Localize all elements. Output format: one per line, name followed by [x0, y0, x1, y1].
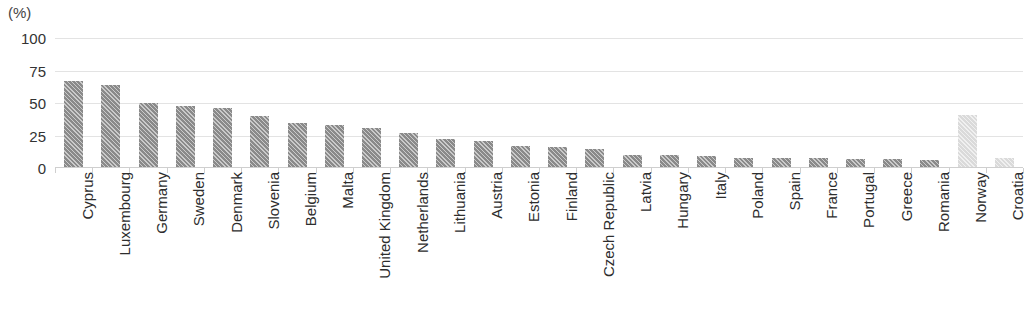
bar	[362, 128, 381, 168]
x-axis-category-labels: CyprusLuxembourgGermanySwedenDenmarkSlov…	[55, 172, 1023, 312]
y-axis-unit-label: (%)	[8, 4, 31, 21]
x-axis-category-label: Poland	[750, 172, 765, 219]
x-axis-category-label: Croatia	[1010, 172, 1025, 220]
y-axis-tick-labels: 0255075100	[0, 38, 46, 168]
plot-area	[55, 38, 1023, 168]
x-axis-category-label: Norway	[973, 172, 988, 223]
x-axis-category-label: Spain	[787, 172, 802, 210]
bar	[511, 146, 530, 168]
bar	[325, 125, 344, 168]
bar	[585, 149, 604, 169]
bar	[250, 116, 269, 168]
x-axis-category-label: Denmark	[229, 172, 244, 233]
bar	[213, 108, 232, 168]
x-axis-category-label: Lithuania	[452, 172, 467, 233]
y-axis-tick-label: 0	[0, 161, 46, 176]
x-axis-category-label: Luxembourg	[117, 172, 132, 255]
y-axis-tick-label: 100	[0, 31, 46, 46]
bar	[436, 139, 455, 168]
x-axis-category-label: United Kingdom	[377, 172, 392, 279]
bar	[288, 123, 307, 169]
bar	[64, 81, 83, 168]
x-axis-category-label: Hungary	[675, 172, 690, 229]
chart-root: (%) 0255075100 CyprusLuxembourgGermanySw…	[0, 0, 1031, 318]
bar	[474, 141, 493, 168]
x-axis-category-label: Cyprus	[80, 172, 95, 220]
bar	[139, 103, 158, 168]
x-axis-category-label: Malta	[340, 172, 355, 209]
x-axis-category-label: Italy	[713, 172, 728, 200]
bar	[399, 133, 418, 168]
x-axis-category-label: Portugal	[861, 172, 876, 228]
x-axis-category-label: Estonia	[526, 172, 541, 222]
x-axis-category-label: Germany	[154, 172, 169, 234]
x-axis-category-label: Slovenia	[266, 172, 281, 230]
x-axis-category-label: Netherlands	[415, 172, 430, 253]
x-axis-category-label: Romania	[936, 172, 951, 232]
y-axis-tick-label: 50	[0, 96, 46, 111]
bar	[176, 106, 195, 168]
x-axis-category-label: Latvia	[638, 172, 653, 212]
x-axis-category-label: Finland	[564, 172, 579, 221]
bar	[101, 85, 120, 168]
bar	[548, 147, 567, 168]
y-axis-tick-label: 25	[0, 129, 46, 144]
x-axis-category-label: Belgium	[303, 172, 318, 226]
x-axis-category-label: Sweden	[191, 172, 206, 226]
x-axis-category-label: Greece	[899, 172, 914, 221]
x-axis-category-label: Czech Republic	[601, 172, 616, 277]
x-axis-category-label: France	[824, 172, 839, 219]
x-axis-category-label: Austria	[489, 172, 504, 219]
bar-series	[55, 38, 1023, 168]
y-axis-tick-label: 75	[0, 64, 46, 79]
bar	[958, 115, 977, 168]
